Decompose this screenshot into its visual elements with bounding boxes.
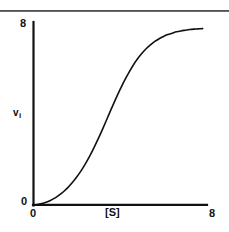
y-axis-label: vi: [13, 108, 21, 118]
axis-lines: [33, 22, 207, 206]
figure-container: 8 0 0 8 vi [S]: [0, 0, 229, 232]
sigmoid-plot: [0, 0, 229, 232]
x-axis-label: [S]: [105, 207, 120, 218]
sigmoid-curve: [33, 29, 203, 205]
data-series-group: [33, 29, 203, 205]
y-axis-label-base: v: [13, 107, 19, 118]
x-axis-tick-min: 0: [30, 208, 36, 219]
y-axis-label-subscript: i: [19, 111, 21, 120]
x-axis-tick-max: 8: [209, 208, 215, 219]
y-axis-tick-max: 8: [20, 18, 26, 29]
y-axis-tick-min: 0: [21, 196, 27, 207]
